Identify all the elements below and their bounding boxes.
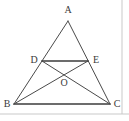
- figure-border: [0, 0, 129, 114]
- vertex-label-A: A: [64, 5, 71, 15]
- side-AC: [68, 21, 110, 104]
- geometry-canvas: [0, 0, 129, 121]
- geometry-figure: A B C D E O: [0, 0, 129, 121]
- side-AB: [14, 21, 68, 104]
- vertex-label-C: C: [114, 99, 121, 109]
- vertex-label-D: D: [30, 55, 37, 65]
- vertex-label-O: O: [60, 78, 67, 88]
- vertex-label-B: B: [4, 99, 11, 109]
- vertex-label-E: E: [93, 55, 99, 65]
